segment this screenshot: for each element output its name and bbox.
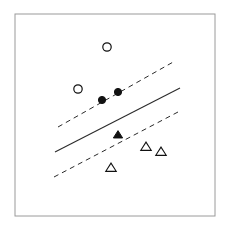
svm-margin-figure: [0, 0, 229, 234]
scatter-plot-canvas: [0, 0, 229, 234]
circle-filled-marker: [98, 96, 105, 103]
figure-background: [0, 0, 229, 234]
circle-open-marker: [74, 85, 82, 93]
circle-filled-marker: [114, 88, 121, 95]
circle-open-marker: [103, 43, 111, 51]
